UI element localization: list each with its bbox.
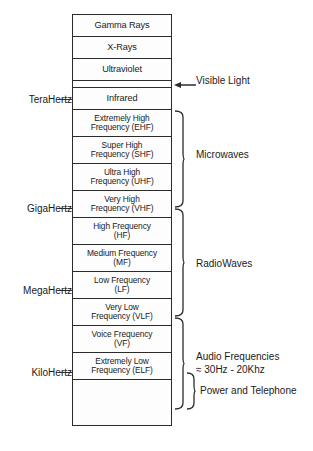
band-infrared: Infrared bbox=[73, 88, 171, 110]
band-label-ultraviolet: Ultraviolet bbox=[102, 65, 142, 75]
band-ultraviolet: Ultraviolet bbox=[73, 59, 171, 81]
band-label-hf: High Frequency(HF) bbox=[93, 222, 151, 240]
band-vhf: Very HighFrequency (VHF) bbox=[73, 191, 171, 218]
group-label-microwaves: Microwaves bbox=[196, 148, 249, 161]
band-label-line2-ehf: Frequency (EHF) bbox=[91, 123, 154, 132]
band-vlf: Very LowFrequency (VLF) bbox=[73, 299, 171, 326]
band-label-shf: Super HighFrequency (SHF) bbox=[91, 141, 154, 159]
band-shf: Super HighFrequency (SHF) bbox=[73, 137, 171, 164]
band-unlabeled-bottom bbox=[73, 380, 171, 425]
band-label-line2-lf: (LF) bbox=[94, 285, 150, 294]
band-mf: Medium Frequency(MF) bbox=[73, 245, 171, 272]
band-uhf: Ultra HighFrequency (UHF) bbox=[73, 164, 171, 191]
band-label-vlf: Very LowFrequency (VLF) bbox=[91, 303, 152, 321]
spectrum-column: Gamma RaysX-RaysUltravioletInfraredExtre… bbox=[72, 14, 172, 426]
band-label-x-rays: X-Rays bbox=[107, 43, 137, 53]
band-label-line2-elf: Frequency (ELF) bbox=[91, 366, 152, 375]
brace-power-and-telephone bbox=[186, 372, 196, 410]
group-label-line2-audio-frequencies: ≈ 30Hz - 20Khz bbox=[196, 363, 279, 376]
band-hf: High Frequency(HF) bbox=[73, 218, 171, 245]
band-label-line2-vf: (VF) bbox=[92, 339, 153, 348]
brace-radiowaves bbox=[174, 208, 185, 317]
visible-light-arrow-icon bbox=[174, 76, 196, 85]
axis-tick-terahertz bbox=[58, 99, 72, 100]
band-label-line2-shf: Frequency (SHF) bbox=[91, 150, 154, 159]
band-elf: Extremely LowFrequency (ELF) bbox=[73, 353, 171, 380]
band-visible-light bbox=[73, 81, 171, 88]
band-label-elf: Extremely LowFrequency (ELF) bbox=[91, 357, 152, 375]
band-ehf: Extremely HighFrequency (EHF) bbox=[73, 110, 171, 137]
band-label-vf: Voice Frequency(VF) bbox=[92, 330, 153, 348]
band-label-gamma-rays: Gamma Rays bbox=[94, 21, 149, 31]
band-label-line2-hf: (HF) bbox=[93, 231, 151, 240]
band-label-infrared: Infrared bbox=[107, 94, 138, 104]
visible-light-label: Visible Light bbox=[196, 75, 250, 86]
band-vf: Voice Frequency(VF) bbox=[73, 326, 171, 353]
band-gamma-rays: Gamma Rays bbox=[73, 15, 171, 37]
band-label-line2-uhf: Frequency (UHF) bbox=[90, 177, 153, 186]
axis-tick-megahertz bbox=[58, 290, 72, 291]
axis-tick-gigahertz bbox=[58, 208, 72, 209]
band-label-uhf: Ultra HighFrequency (UHF) bbox=[90, 168, 153, 186]
band-lf: Low Frequency(LF) bbox=[73, 272, 171, 299]
band-label-line2-vlf: Frequency (VLF) bbox=[91, 312, 152, 321]
band-label-line2-vhf: Frequency (VHF) bbox=[91, 204, 154, 213]
brace-microwaves bbox=[174, 110, 185, 208]
band-label-lf: Low Frequency(LF) bbox=[94, 276, 150, 294]
brace-audio-frequencies bbox=[174, 317, 185, 410]
band-label-vhf: Very HighFrequency (VHF) bbox=[91, 195, 154, 213]
band-label-line2-mf: (MF) bbox=[87, 258, 157, 267]
group-label-power-and-telephone: Power and Telephone bbox=[200, 384, 297, 397]
band-x-rays: X-Rays bbox=[73, 37, 171, 59]
band-label-mf: Medium Frequency(MF) bbox=[87, 249, 157, 267]
group-label-audio-frequencies: Audio Frequencies≈ 30Hz - 20Khz bbox=[196, 350, 279, 376]
group-label-radiowaves: RadioWaves bbox=[196, 257, 252, 270]
axis-tick-kilohertz bbox=[58, 372, 72, 373]
band-label-ehf: Extremely HighFrequency (EHF) bbox=[91, 114, 154, 132]
